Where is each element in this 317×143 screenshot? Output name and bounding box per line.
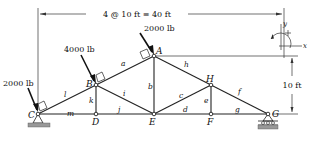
load-label-b: 4000 lb	[64, 45, 95, 54]
member-label-g: g	[235, 105, 240, 114]
node-label-b: B	[85, 79, 93, 89]
node-label-d: D	[91, 117, 99, 127]
load-label-c: 2000 lb	[3, 79, 34, 88]
node-label-h: H	[205, 74, 214, 84]
node-label-f: F	[206, 117, 214, 127]
member-label-d: d	[183, 105, 188, 114]
member-label-e: e	[204, 96, 209, 105]
truss-members	[38, 56, 268, 114]
truss-diagram: 4 @ 10 ft ≡ 40 ft 10 ft y x a b c d e f …	[0, 0, 317, 143]
member-label-a: a	[121, 59, 125, 68]
load-label-a: 2000 lb	[144, 24, 175, 33]
height-dimension-label: 10 ft	[283, 81, 303, 90]
height-dimension	[156, 56, 298, 114]
load-arrow-c	[28, 88, 47, 112]
member-label-f: f	[237, 87, 242, 96]
node-label-g: G	[272, 109, 279, 119]
span-dimension-label: 4 @ 10 ft ≡ 40 ft	[103, 10, 172, 19]
load-arrow-b	[81, 55, 105, 84]
node-label-a: A	[155, 46, 163, 56]
node-label-c: C	[28, 110, 35, 120]
x-axis-label: x	[303, 42, 307, 50]
member-label-k: k	[89, 96, 94, 105]
y-axis-label: y	[282, 20, 288, 28]
member-label-l: l	[64, 90, 67, 99]
member-label-h: h	[184, 60, 189, 69]
member-label-m: m	[67, 109, 74, 118]
node-label-e: E	[148, 117, 156, 127]
member-label-j: j	[116, 105, 121, 114]
member-label-i: i	[123, 89, 126, 98]
member-label-b: b	[148, 82, 153, 91]
load-arrow-a	[140, 33, 154, 59]
